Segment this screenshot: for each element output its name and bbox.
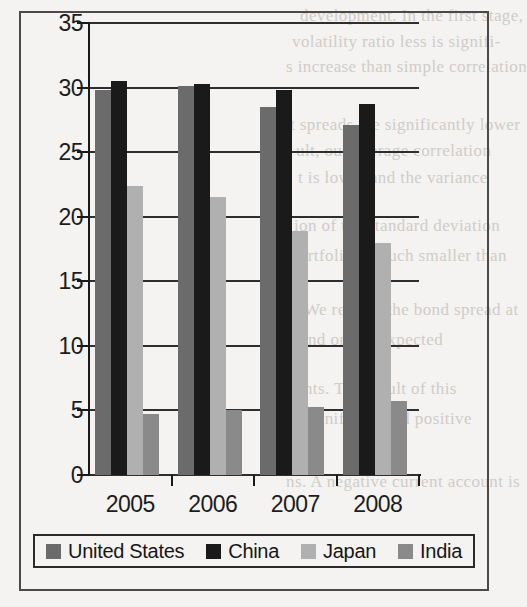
bar-china-2005 (111, 81, 127, 475)
x-axis-tick-labels: 2005200620072008 (89, 491, 419, 518)
x-axis-tick-label: 2005 (89, 491, 172, 518)
bar-india-2006 (226, 410, 242, 475)
chart-figure-frame: 05101520253035 2005200620072008 United S… (19, 11, 489, 591)
y-axis-tick-labels: 05101520253035 (21, 23, 83, 475)
bar-china-2008 (359, 104, 375, 475)
bar-groups-container (89, 23, 419, 475)
bar-group-2008 (337, 23, 420, 475)
bar-japan-2008 (375, 243, 391, 475)
bar-india-2008 (391, 401, 407, 475)
legend-label: United States (68, 540, 184, 563)
bar-united-states-2007 (260, 107, 276, 475)
bar-united-states-2006 (178, 86, 194, 475)
legend-swatch-icon (301, 544, 316, 559)
bar-china-2006 (194, 84, 210, 475)
legend-item-japan[interactable]: Japan (301, 540, 376, 563)
x-axis-tick-label: 2007 (254, 491, 337, 518)
bar-india-2007 (308, 407, 324, 475)
bar-japan-2007 (292, 231, 308, 475)
legend-label: Japan (323, 540, 376, 563)
legend-swatch-icon (46, 544, 61, 559)
x-axis-tick-mark (171, 475, 173, 486)
bar-group-2007 (254, 23, 337, 475)
legend-item-india[interactable]: India (398, 540, 462, 563)
x-axis-tick-mark (253, 475, 255, 486)
chart-plot-area (89, 23, 419, 475)
bar-china-2007 (276, 90, 292, 475)
legend-swatch-icon (206, 544, 221, 559)
bar-india-2005 (143, 414, 159, 475)
chart-legend: United StatesChinaJapanIndia (33, 534, 475, 568)
bar-united-states-2008 (343, 125, 359, 475)
x-axis-tick-mark (418, 475, 420, 486)
legend-item-china[interactable]: China (206, 540, 279, 563)
x-axis-tick-label: 2006 (172, 491, 255, 518)
bar-japan-2006 (210, 197, 226, 475)
bar-group-2006 (172, 23, 255, 475)
x-axis-tick-label: 2008 (337, 491, 420, 518)
x-axis-tick-mark (336, 475, 338, 486)
chart-plot-wrapper: 05101520253035 2005200620072008 United S… (21, 13, 487, 589)
legend-label: India (420, 540, 462, 563)
legend-label: China (228, 540, 279, 563)
legend-item-united-states[interactable]: United States (46, 540, 184, 563)
bar-group-2005 (89, 23, 172, 475)
bar-japan-2005 (127, 186, 143, 475)
legend-swatch-icon (398, 544, 413, 559)
bar-united-states-2005 (95, 90, 111, 475)
